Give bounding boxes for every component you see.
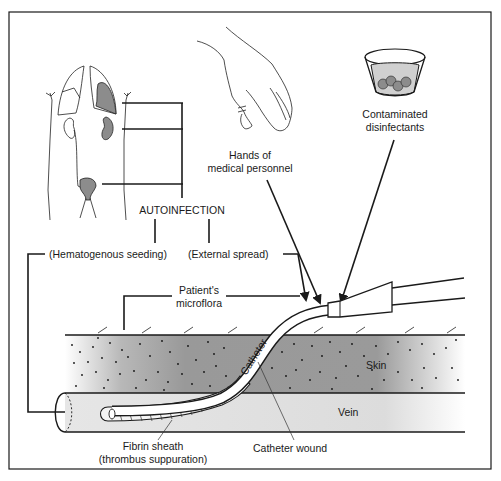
infection-diagram: AUTOINFECTION (Hematogenous seeding) (Ex… xyxy=(0,0,501,481)
fibrin-label-line2: (thrombus suppuration) xyxy=(99,453,208,465)
microflora-label-line2: microflora xyxy=(176,297,222,309)
right-kidney xyxy=(64,118,75,138)
vein-label: Vein xyxy=(338,406,359,418)
hands-label-line1: Hands of xyxy=(229,149,271,161)
left-kidney xyxy=(102,117,113,140)
hand-icon xyxy=(197,27,292,131)
skin-label: Skin xyxy=(366,359,387,371)
body-outline xyxy=(46,66,131,220)
disinfectant-cup-icon xyxy=(365,49,425,96)
hematogenous-label: (Hematogenous seeding) xyxy=(49,248,167,260)
microflora-label-line1: Patient's xyxy=(179,284,219,296)
catheter-wound-label: Catheter wound xyxy=(253,442,327,454)
disinfectants-label-line2: disinfectants xyxy=(366,121,424,133)
fibrin-label-line1: Fibrin sheath xyxy=(123,440,184,452)
catheter-hub xyxy=(328,278,465,317)
disinfectants-arrow xyxy=(341,140,394,302)
disinfectants-label-line1: Contaminated xyxy=(362,108,428,120)
autoinfection-label: AUTOINFECTION xyxy=(139,204,225,216)
external-label: (External spread) xyxy=(188,248,269,260)
autoinfection-bracket xyxy=(102,103,183,198)
hands-arrow xyxy=(267,180,320,303)
bladder xyxy=(80,178,96,200)
right-lung xyxy=(58,66,84,115)
microflora-left-leader xyxy=(124,296,172,330)
hands-label-line2: medical personnel xyxy=(207,162,292,174)
